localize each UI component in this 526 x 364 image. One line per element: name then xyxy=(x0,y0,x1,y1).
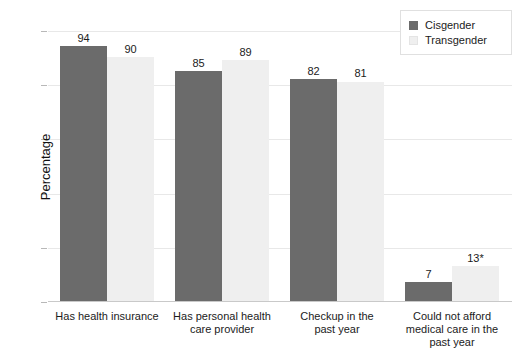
bar-value-transgender-3: 13* xyxy=(467,252,484,264)
bar-transgender-0 xyxy=(107,57,154,301)
bar-transgender-2 xyxy=(337,82,384,302)
category-label-line: Has health insurance xyxy=(42,310,172,323)
bar-transgender-1 xyxy=(222,60,269,301)
category-label-2: Checkup in thepast year xyxy=(272,310,402,336)
bar-value-transgender-0: 90 xyxy=(124,43,136,55)
bar-value-cisgender-1: 85 xyxy=(192,57,204,69)
legend-label-cisgender: Cisgender xyxy=(425,19,475,31)
y-tick-mark-100 xyxy=(41,31,47,32)
legend-swatch-transgender xyxy=(409,36,418,45)
category-label-line: Checkup in the xyxy=(272,310,402,323)
y-tick-mark-80 xyxy=(41,85,47,86)
bar-transgender-3 xyxy=(452,266,499,301)
category-label-1: Has personal healthcare provider xyxy=(157,310,287,336)
bar-value-transgender-2: 81 xyxy=(354,67,366,79)
legend-item-cisgender: Cisgender xyxy=(409,18,503,32)
y-tick-mark-20 xyxy=(41,248,47,249)
category-label-line: care provider xyxy=(157,323,287,336)
bar-value-transgender-1: 89 xyxy=(239,46,251,58)
bar-cisgender-3 xyxy=(405,282,452,301)
bar-value-cisgender-0: 94 xyxy=(77,32,89,44)
legend-label-transgender: Transgender xyxy=(425,34,487,46)
bar-value-cisgender-3: 7 xyxy=(425,268,431,280)
legend-swatch-cisgender xyxy=(409,21,418,30)
y-tick-mark-0 xyxy=(41,302,47,303)
category-label-0: Has health insurance xyxy=(42,310,172,323)
bar-chart: 100 80 60 40 20 0 Percentage 94858279089… xyxy=(0,0,526,364)
y-axis-title: Percentage xyxy=(38,133,53,200)
category-label-line: Could not afford xyxy=(387,310,517,323)
axis-baseline xyxy=(48,301,512,302)
category-label-3: Could not affordmedical care in thepast … xyxy=(387,310,517,349)
bar-cisgender-1 xyxy=(175,71,222,301)
category-label-line: past year xyxy=(387,336,517,349)
bar-value-cisgender-2: 82 xyxy=(307,65,319,77)
category-label-line: past year xyxy=(272,323,402,336)
bar-cisgender-2 xyxy=(290,79,337,301)
category-label-line: Has personal health xyxy=(157,310,287,323)
legend-item-transgender: Transgender xyxy=(409,33,503,47)
category-label-line: medical care in the xyxy=(387,323,517,336)
plot-area: 100 80 60 40 20 0 Percentage 94858279089… xyxy=(48,31,512,302)
bar-cisgender-0 xyxy=(60,46,107,301)
chart-legend: Cisgender Transgender xyxy=(400,10,512,55)
